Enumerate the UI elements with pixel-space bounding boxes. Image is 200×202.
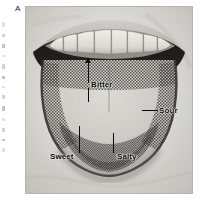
tongue-photograph bbox=[25, 6, 193, 194]
clipped-text-fragment bbox=[2, 76, 5, 79]
clipped-text-column bbox=[0, 22, 9, 177]
clipped-text-fragment bbox=[2, 139, 5, 141]
clipped-text-fragment bbox=[2, 34, 5, 37]
clipped-text-fragment bbox=[2, 128, 5, 132]
panel-letter: A bbox=[15, 4, 21, 14]
clipped-text-fragment bbox=[2, 106, 5, 111]
figure-root: A bbox=[0, 0, 200, 202]
clipped-text-fragment bbox=[2, 118, 5, 121]
clipped-text-fragment bbox=[2, 86, 5, 88]
tongue-photograph-image bbox=[25, 6, 193, 194]
clipped-text-fragment bbox=[2, 22, 5, 27]
clipped-text-fragment bbox=[2, 64, 5, 69]
clipped-text-fragment bbox=[2, 148, 5, 152]
clipped-text-fragment bbox=[2, 44, 5, 48]
clipped-text-fragment bbox=[2, 95, 5, 99]
clipped-text-fragment bbox=[2, 55, 5, 57]
